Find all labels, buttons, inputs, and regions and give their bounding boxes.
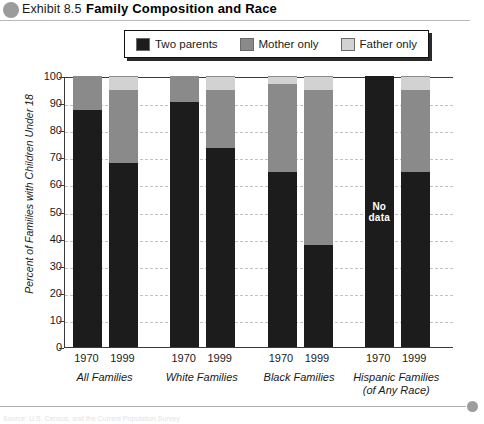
exhibit-header: Exhibit 8.5 Family Composition and Race (0, 0, 484, 22)
legend-item-father-only: Father only (341, 38, 418, 51)
bar-white-families-1999[interactable] (206, 76, 235, 347)
bar-hispanic-families-1999[interactable] (401, 76, 430, 347)
y-axis-tick-label: 50 (32, 206, 62, 218)
no-data-annotation: Nodata (365, 201, 394, 223)
bar-black-families-1970[interactable] (268, 76, 297, 347)
bar-segment-father-only (206, 76, 235, 90)
footer-divider (0, 406, 466, 407)
bar-all-families-1970[interactable] (73, 76, 102, 347)
x-axis-year-label: 1999 (296, 352, 338, 364)
x-axis-year-label: 1999 (199, 352, 241, 364)
footer-bullet-icon (467, 401, 478, 412)
legend-item-mother-only: Mother only (240, 38, 319, 51)
no-data-line1: No (365, 201, 394, 212)
legend-label: Mother only (259, 38, 319, 50)
bar-all-families-1999[interactable] (109, 76, 138, 347)
chart-legend: Two parents Mother only Father only (124, 30, 429, 58)
bar-white-families-1970[interactable] (170, 76, 199, 347)
x-axis-year-label: 1999 (102, 352, 144, 364)
y-axis-tick-label: 60 (32, 178, 62, 190)
bar-segment-mother-only (73, 76, 102, 110)
bar-segment-two-parents (268, 172, 297, 347)
y-axis-tick-label: 40 (32, 233, 62, 245)
bar-hispanic-families-1970[interactable]: Nodata (365, 76, 394, 347)
legend-swatch-icon (240, 38, 254, 51)
bar-segment-two-parents (401, 172, 430, 347)
no-data-line2: data (365, 212, 394, 223)
bar-segment-father-only (304, 76, 333, 90)
x-axis-group-label: Hispanic Families(of Any Race) (336, 371, 456, 397)
legend-swatch-icon (136, 38, 150, 51)
y-axis-tick-label: 100 (32, 70, 62, 82)
source-note: Source: U.S. Census, and the Current Pop… (3, 415, 180, 422)
bar-segment-two-parents (304, 245, 333, 347)
y-axis-tick-label: 10 (32, 314, 62, 326)
y-axis-tick-label: 0 (32, 341, 62, 353)
group-label-line1: Hispanic Families (336, 371, 456, 384)
bar-segment-two-parents (170, 102, 199, 347)
y-axis-tick-label: 90 (32, 97, 62, 109)
legend-swatch-icon (341, 38, 355, 51)
bar-segment-mother-only (206, 90, 235, 148)
y-axis-tick-mark (59, 348, 64, 349)
y-axis-tick-label: 30 (32, 260, 62, 272)
bar-segment-mother-only (304, 90, 333, 246)
chart-container: Percent of Families with Children Under … (0, 66, 484, 396)
bar-segment-mother-only (109, 90, 138, 163)
y-axis-tick-label: 70 (32, 151, 62, 163)
legend-label: Two parents (155, 38, 218, 50)
bar-segment-mother-only (268, 84, 297, 172)
bar-segment-father-only (401, 76, 430, 90)
bar-black-families-1999[interactable] (304, 76, 333, 347)
bar-segment-two-parents (109, 163, 138, 347)
bar-segment-father-only (268, 76, 297, 84)
group-label-line2: (of Any Race) (336, 384, 456, 397)
bar-segment-mother-only (401, 90, 430, 173)
y-axis-tick-label: 80 (32, 124, 62, 136)
bar-segment-two-parents (73, 110, 102, 347)
exhibit-number-label: Exhibit 8.5 (22, 2, 81, 16)
header-divider (0, 20, 470, 21)
y-axis-tick-label: 20 (32, 287, 62, 299)
bar-segment-father-only (109, 76, 138, 90)
bar-segment-two-parents (206, 148, 235, 347)
legend-item-two-parents: Two parents (136, 38, 218, 51)
legend-label: Father only (360, 38, 418, 50)
circle-bullet-icon (3, 2, 19, 18)
y-axis-title: Percent of Families with Children Under … (23, 79, 35, 309)
bar-segment-mother-only (170, 76, 199, 102)
plot-area: Nodata (64, 77, 453, 348)
page-title: Family Composition and Race (86, 1, 277, 16)
x-axis-year-label: 1999 (393, 352, 435, 364)
